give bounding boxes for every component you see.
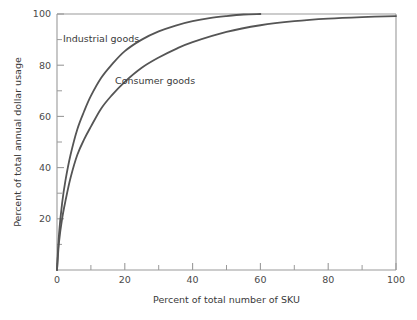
x-axis-title: Percent of total number of SKU — [153, 294, 300, 305]
y-tick-label-100: 100 — [33, 8, 51, 19]
y-axis-title: Percent of total annual dollar usage — [12, 57, 23, 227]
y-tick-label-60: 60 — [39, 111, 51, 122]
x-tick-label-100: 100 — [387, 274, 405, 285]
x-tick-label-40: 40 — [187, 274, 199, 285]
annotation-industrial-goods: Industrial goods — [63, 33, 139, 44]
chart-background — [0, 0, 417, 320]
pareto-curve-chart: 20406080100 020406080100 Industrial good… — [0, 0, 417, 320]
x-tick-label-80: 80 — [322, 274, 334, 285]
x-tick-label-60: 60 — [254, 274, 266, 285]
x-tick-label-0: 0 — [54, 274, 60, 285]
y-tick-label-80: 80 — [39, 60, 51, 71]
y-tick-label-40: 40 — [39, 162, 51, 173]
y-tick-label-20: 20 — [39, 213, 51, 224]
x-tick-label-20: 20 — [119, 274, 131, 285]
chart-figure: 20406080100 020406080100 Industrial good… — [0, 0, 417, 320]
annotation-consumer-goods: Consumer goods — [115, 75, 195, 86]
